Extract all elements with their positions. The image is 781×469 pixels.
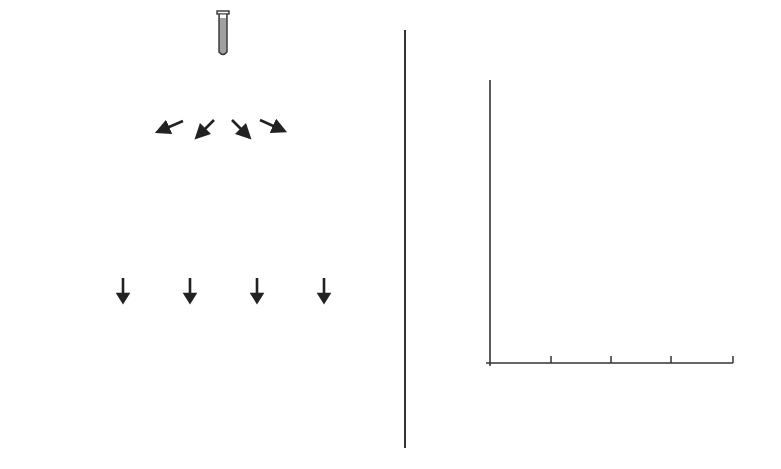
chart-plot <box>440 60 760 400</box>
chart-ylabel-rule <box>404 30 406 448</box>
arrow-icon <box>260 120 280 129</box>
culture-arrows <box>100 275 360 305</box>
test-tube-icon <box>216 10 230 58</box>
arrow-icon <box>232 120 246 134</box>
arrow-icon <box>162 121 183 130</box>
distribution-arrows <box>150 110 290 140</box>
arrow-icon <box>200 120 214 134</box>
